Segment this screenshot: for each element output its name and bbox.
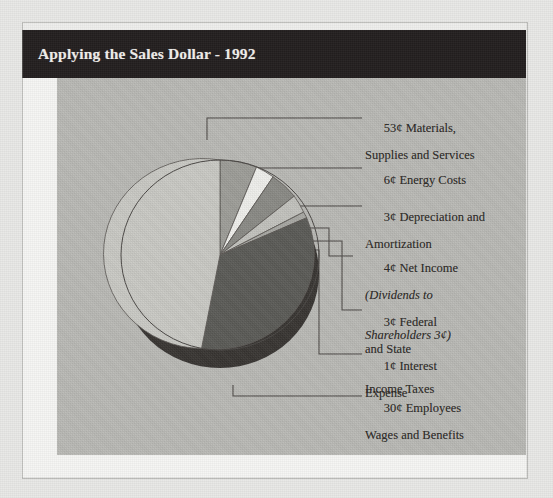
page-title: Applying the Sales Dollar - 1992 bbox=[22, 45, 256, 63]
label-energy-line1: 6¢ Energy Costs bbox=[384, 173, 466, 187]
pie-slices bbox=[104, 159, 315, 350]
chart-plot-area: 53¢ Materials, Supplies and Services 6¢ … bbox=[57, 78, 526, 455]
label-materials-line1: 53¢ Materials, bbox=[384, 121, 456, 135]
label-employees-line1: 30¢ Employees bbox=[384, 401, 461, 415]
label-net-income-note-line1: (Dividends to bbox=[365, 289, 458, 303]
label-depreciation-line1: 3¢ Depreciation and bbox=[384, 210, 485, 224]
card-left-gutter bbox=[22, 78, 57, 477]
label-energy: 6¢ Energy Costs bbox=[365, 160, 466, 201]
label-employees: 30¢ Employees Wages and Benefits bbox=[365, 388, 464, 455]
chart-title-bar: Applying the Sales Dollar - 1992 bbox=[22, 30, 526, 78]
label-employees-line2: Wages and Benefits bbox=[365, 429, 464, 443]
label-net-income-line1: 4¢ Net Income bbox=[384, 261, 458, 275]
label-interest-line1: 1¢ Interest bbox=[384, 359, 437, 373]
figure-page: Applying the Sales Dollar - 1992 bbox=[0, 0, 553, 498]
card-top-strip bbox=[22, 22, 526, 30]
card-bottom-strip bbox=[57, 455, 526, 477]
label-federal-taxes-line1: 3¢ Federal bbox=[384, 315, 437, 329]
